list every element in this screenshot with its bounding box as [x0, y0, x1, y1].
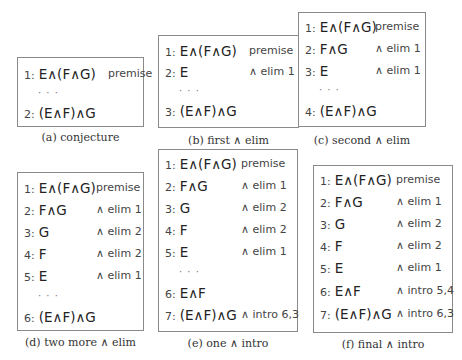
panel-caption: (a) conjecture	[17, 131, 144, 144]
proof-line: 2: (E∧F)∧G	[24, 105, 96, 123]
ellipsis-gap: · · ·	[38, 288, 59, 304]
formula: G	[180, 200, 190, 216]
proof-line: 4: F	[24, 246, 46, 264]
panel-caption: (e) one ∧ intro	[158, 337, 298, 350]
proof-line: 3: G	[320, 216, 345, 234]
justification: ∧ elim 2	[96, 246, 142, 262]
line-number: 3:	[320, 219, 331, 232]
ellipsis-gap: · · ·	[38, 85, 59, 101]
line-number: 5:	[165, 247, 176, 260]
formula: F∧G	[320, 41, 348, 57]
formula: G	[335, 216, 345, 232]
formula: F∧G	[335, 194, 363, 210]
formula: (E∧F)∧G	[335, 306, 392, 322]
justification: ∧ elim 1	[96, 202, 142, 218]
formula: (E∧F)∧G	[180, 103, 237, 119]
ellipsis-gap: · · ·	[179, 264, 200, 280]
line-number: 4:	[320, 241, 331, 254]
justification: ∧ elim 1	[241, 178, 287, 194]
formula: E∧(F∧G)	[180, 43, 237, 59]
line-number: 5:	[320, 263, 331, 276]
formula: (E∧F)∧G	[39, 309, 96, 325]
panel-caption: (c) second ∧ elim	[298, 134, 426, 147]
line-number: 4:	[165, 225, 176, 238]
line-number: 1:	[165, 46, 176, 59]
justification: ∧ elim 2	[396, 216, 442, 232]
formula: E	[39, 268, 48, 284]
proof-line: 4: F	[320, 238, 342, 256]
formula: E∧(F∧G)	[320, 19, 377, 35]
line-number: 2:	[165, 67, 176, 80]
proof-line: 2: F∧G	[320, 194, 363, 212]
proof-line: 5: E	[320, 260, 343, 278]
proof-line: 3: (E∧F)∧G	[165, 103, 237, 121]
justification: ∧ elim 2	[96, 224, 142, 240]
proof-box: 1: E∧(F∧G)premise2: F∧G∧ elim 13: G∧ eli…	[158, 149, 298, 332]
justification: ∧ elim 1	[375, 63, 421, 79]
justification: ∧ elim 2	[241, 200, 287, 216]
proof-line: 2: F∧G	[165, 178, 208, 196]
line-number: 3:	[165, 106, 176, 119]
proof-line: 6: E∧F	[320, 283, 361, 301]
formula: (E∧F)∧G	[39, 105, 96, 121]
proof-line: 2: E	[165, 64, 188, 82]
line-number: 2:	[165, 181, 176, 194]
line-number: 1:	[24, 183, 35, 196]
justification: ∧ intro 6,3	[396, 306, 454, 322]
proof-line: 7: (E∧F)∧G	[320, 306, 392, 324]
justification: premise	[108, 66, 152, 82]
proof-box: 1: E∧(F∧G)premise· · ·2: (E∧F)∧G	[17, 57, 144, 127]
proof-line: 2: F∧G	[305, 41, 348, 59]
proof-line: 2: F∧G	[24, 202, 67, 220]
formula: E∧F	[335, 283, 361, 299]
formula: E∧(F∧G)	[39, 66, 96, 82]
line-number: 5:	[24, 271, 35, 284]
line-number: 6:	[24, 312, 35, 325]
line-number: 1:	[165, 159, 176, 172]
proof-line: 1: E∧(F∧G)	[165, 156, 237, 174]
ellipsis-gap: · · ·	[319, 82, 340, 98]
formula: E	[320, 63, 329, 79]
proof-line: 6: E∧F	[165, 285, 206, 303]
panel-caption: (b) first ∧ elim	[158, 134, 299, 147]
proof-box: 1: E∧(F∧G)premise2: E∧ elim 1· · ·3: (E∧…	[158, 35, 299, 128]
line-number: 1:	[24, 69, 35, 82]
line-number: 6:	[320, 286, 331, 299]
justification: ∧ intro 6,3	[241, 307, 299, 323]
line-number: 2:	[305, 44, 316, 57]
proof-line: 4: (E∧F)∧G	[305, 103, 377, 121]
line-number: 6:	[165, 288, 176, 301]
justification: premise	[249, 43, 293, 59]
formula: F∧G	[39, 202, 67, 218]
proof-line: 1: E∧(F∧G)	[24, 180, 96, 198]
proof-line: 6: (E∧F)∧G	[24, 309, 96, 327]
formula: E	[335, 260, 344, 276]
justification: ∧ elim 1	[396, 260, 442, 276]
justification: ∧ elim 1	[241, 244, 287, 260]
formula: E∧(F∧G)	[180, 156, 237, 172]
formula: (E∧F)∧G	[320, 103, 377, 119]
proof-line: 1: E∧(F∧G)	[320, 172, 392, 190]
justification: premise	[375, 19, 419, 35]
proof-line: 3: E	[305, 63, 328, 81]
line-number: 7:	[320, 309, 331, 322]
line-number: 2:	[320, 197, 331, 210]
justification: ∧ elim 1	[249, 64, 295, 80]
panel-caption: (d) two more ∧ elim	[17, 336, 144, 349]
proof-line: 1: E∧(F∧G)	[165, 43, 237, 61]
line-number: 2:	[24, 205, 35, 218]
proof-line: 5: E	[24, 268, 47, 286]
formula: E∧(F∧G)	[39, 180, 96, 196]
ellipsis-gap: · · ·	[179, 83, 200, 99]
proof-line: 1: E∧(F∧G)	[305, 19, 377, 37]
formula: E∧(F∧G)	[335, 172, 392, 188]
formula: E	[180, 244, 189, 260]
proof-line: 5: E	[165, 244, 188, 262]
line-number: 3:	[305, 66, 316, 79]
formula: (E∧F)∧G	[180, 307, 237, 323]
formula: F	[335, 238, 343, 254]
formula: G	[39, 224, 49, 240]
line-number: 3:	[165, 203, 176, 216]
line-number: 7:	[165, 310, 176, 323]
formula: F∧G	[180, 178, 208, 194]
